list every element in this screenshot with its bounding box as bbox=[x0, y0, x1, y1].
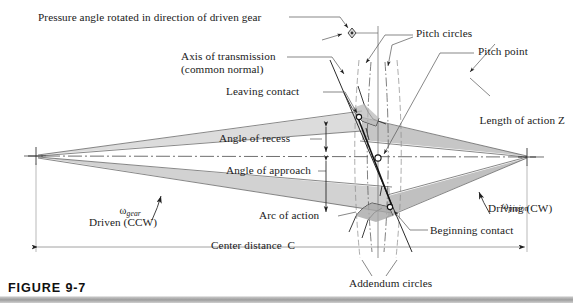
leader-leaving-contact bbox=[323, 92, 357, 113]
omega-gear-symbol: ω bbox=[120, 205, 127, 216]
label-driving: Driving (CW) bbox=[488, 202, 552, 215]
label-angle-of-approach: Angle of approach bbox=[226, 164, 311, 177]
label-addendum-circles: Addendum circles bbox=[349, 277, 432, 290]
leader-beginning-contact bbox=[394, 211, 428, 230]
leader-pressure-angle bbox=[289, 17, 348, 28]
beginning-contact-point bbox=[387, 204, 392, 209]
label-leaving-contact: Leaving contact bbox=[226, 85, 299, 98]
label-axis-of-transmission-line2: (common normal) bbox=[181, 63, 264, 76]
shaded-sectors-gear bbox=[38, 112, 390, 213]
label-arc-of-action: Arc of action bbox=[259, 209, 319, 222]
centerline bbox=[24, 156, 545, 157]
leader-addendum-b bbox=[386, 260, 397, 276]
pressure-angle-marker-icon bbox=[348, 28, 378, 38]
label-pitch-point: Pitch point bbox=[478, 45, 528, 58]
pitch-point-marker bbox=[375, 155, 381, 161]
label-driven: Driven (CCW) bbox=[89, 216, 157, 229]
leaving-contact-point bbox=[356, 114, 361, 119]
caption-divider-bar bbox=[0, 296, 573, 303]
label-pressure-angle: Pressure angle rotated in direction of d… bbox=[38, 11, 261, 24]
figure-caption: FIGURE 9-7 bbox=[8, 281, 86, 295]
leader-axis-transmission bbox=[287, 57, 344, 74]
label-length-of-action-text: Length of action Z bbox=[480, 114, 565, 126]
leader-addendum-a bbox=[362, 260, 372, 276]
addendum-circle-pinion bbox=[396, 60, 401, 258]
label-pitch-circles: Pitch circles bbox=[416, 27, 472, 40]
leader-arc-of-action bbox=[338, 212, 356, 216]
label-center-distance: Center distance C bbox=[211, 239, 295, 252]
label-angle-of-recess: Angle of recess bbox=[219, 132, 290, 145]
pinion-center-crosshair bbox=[518, 148, 536, 166]
label-axis-of-transmission-line1: Axis of transmission bbox=[181, 50, 276, 63]
gear-center-crosshair bbox=[28, 147, 46, 165]
leader-pitch-circles-b bbox=[388, 37, 413, 66]
axis-of-transmission bbox=[330, 60, 412, 252]
figure-container: Pressure angle rotated in direction of d… bbox=[0, 0, 573, 303]
label-length-of-action: Length of action Z bbox=[468, 101, 565, 139]
leader-pressure-angle-2 bbox=[322, 34, 342, 40]
leader-length-of-action-2 bbox=[470, 78, 490, 96]
